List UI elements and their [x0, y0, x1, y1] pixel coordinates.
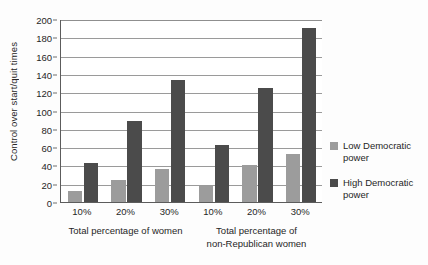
bars-container — [61, 20, 322, 202]
y-tick-mark — [53, 129, 57, 130]
y-tick-label: 20 — [41, 179, 52, 190]
x-tick-label: 10% — [72, 206, 91, 217]
y-axis-title-text: Control over start/quit times — [8, 42, 19, 161]
y-tick-label: 200 — [36, 15, 52, 26]
bar — [286, 154, 301, 202]
x-tick-label: 20% — [247, 206, 266, 217]
y-tick-mark — [53, 93, 57, 94]
y-tick-mark — [53, 20, 57, 21]
bar — [127, 121, 142, 202]
bar-chart-figure: Control over start/quit times 2001801601… — [0, 0, 428, 265]
y-tick-label: 100 — [36, 106, 52, 117]
x-tick-label: 10% — [203, 206, 222, 217]
bar — [258, 88, 273, 202]
x-tick-label: 30% — [160, 206, 179, 217]
legend-label: High Democraticpower — [343, 177, 413, 201]
y-tick-mark — [53, 166, 57, 167]
bar — [111, 180, 126, 202]
x-tick-label: 30% — [291, 206, 310, 217]
y-tick-label: 80 — [41, 124, 52, 135]
y-axis-tick-labels: 200180160140120100806040200 — [24, 20, 56, 203]
high-democratic-swatch — [330, 179, 338, 187]
group-caption: Total percentage of women — [68, 224, 182, 237]
y-tick-label: 40 — [41, 161, 52, 172]
legend-entry[interactable]: High Democraticpower — [330, 177, 426, 201]
plot-area — [60, 20, 322, 203]
y-tick-label: 160 — [36, 51, 52, 62]
bar — [302, 28, 317, 202]
y-axis-title: Control over start/quit times — [2, 0, 24, 203]
chart-legend: Low DemocraticpowerHigh Democraticpower — [330, 140, 426, 214]
bar — [155, 169, 170, 202]
bar — [68, 191, 83, 202]
x-axis-tick-labels: 10%20%30%10%20%30% — [60, 206, 322, 220]
y-tick-mark — [53, 148, 57, 149]
bar — [242, 165, 257, 202]
y-tick-mark — [53, 38, 57, 39]
y-tick-mark — [53, 203, 57, 204]
legend-label: Low Democraticpower — [343, 140, 411, 164]
x-tick-label: 20% — [116, 206, 135, 217]
legend-entry[interactable]: Low Democraticpower — [330, 140, 426, 164]
low-democratic-swatch — [330, 142, 338, 150]
bar — [215, 145, 230, 202]
y-tick-label: 120 — [36, 88, 52, 99]
y-tick-label: 60 — [41, 143, 52, 154]
y-tick-label: 140 — [36, 69, 52, 80]
y-tick-label: 0 — [47, 198, 52, 209]
y-tick-mark — [53, 56, 57, 57]
y-tick-mark — [53, 111, 57, 112]
y-tick-mark — [53, 74, 57, 75]
bar — [84, 163, 99, 202]
bar — [171, 80, 186, 202]
y-tick-label: 180 — [36, 33, 52, 44]
y-tick-mark — [53, 184, 57, 185]
bar — [199, 186, 214, 202]
group-caption: Total percentage ofnon-Republican women — [207, 224, 307, 250]
x-axis-group-captions: Total percentage of womenTotal percentag… — [60, 224, 322, 260]
